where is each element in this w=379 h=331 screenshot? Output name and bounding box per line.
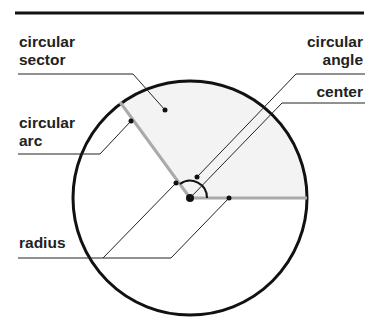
- label-center: center: [316, 83, 363, 101]
- label-radius: radius: [19, 234, 66, 252]
- label-circular-arc: circular arc: [19, 114, 75, 150]
- label-circular-angle: circular angle: [307, 33, 363, 69]
- label-circular-sector: circular sector: [19, 33, 75, 69]
- radius-leader-2: [103, 198, 229, 258]
